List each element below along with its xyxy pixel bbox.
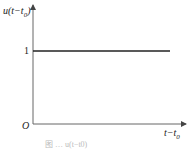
figure-caption: 图 … u(t−t0) (45, 138, 87, 149)
y-axis-label-text: u(t−t (3, 5, 24, 16)
y-tick-1: 1 (24, 46, 29, 56)
x-axis-label-text: t−t (164, 127, 176, 138)
y-axis-label: u(t−t0) (3, 6, 30, 19)
x-axis-label: t−t0 (164, 128, 180, 141)
origin-label: O (22, 121, 29, 131)
x-axis-label-subscript: 0 (176, 133, 180, 141)
y-axis-label-close: ) (27, 5, 30, 16)
